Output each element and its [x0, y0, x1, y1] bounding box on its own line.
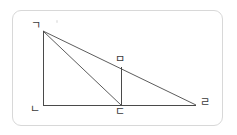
stray-speck [56, 20, 58, 23]
segment-giyeok-rieul [43, 31, 196, 105]
vertex-label-giyeok: ㄱ [31, 20, 41, 31]
vertex-label-mieum: ㅁ [115, 54, 125, 65]
segment-giyeok-digeut [43, 31, 121, 105]
geometry-figure: ㄱ ㄴ ㄷ ㄹ ㅁ [0, 0, 237, 135]
vertex-label-nieun: ㄴ [30, 104, 40, 115]
vertex-label-rieul: ㄹ [200, 97, 210, 108]
vertex-label-digeut: ㄷ [115, 106, 125, 117]
